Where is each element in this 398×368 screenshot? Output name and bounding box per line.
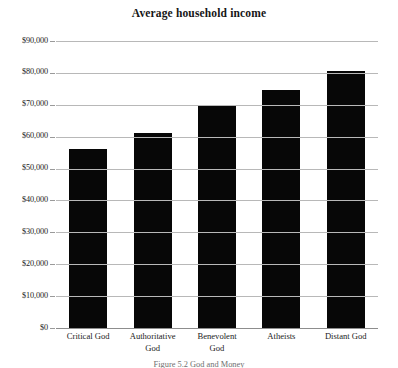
gridline [56,232,378,233]
gridline [56,200,378,201]
y-axis-labels: $90,000$80,000$70,000$60,000$50,000$40,0… [0,41,48,328]
x-axis-tick-label: Atheists [249,331,313,343]
y-axis-tick-label: $10,000 [22,291,48,300]
plot-area [56,41,378,328]
y-axis-tick-label: $20,000 [22,259,48,268]
y-axis-tick-label: $30,000 [22,227,48,236]
x-axis-tick-label: BenevolentGod [185,331,249,354]
y-axis-tick-label: $90,000 [22,36,48,45]
bar [198,105,236,328]
x-axis-tick-label: AuthoritativeGod [120,331,184,354]
x-axis-tick-label-line2: God [120,343,184,355]
y-axis-tick [50,73,55,74]
gridline [56,41,378,42]
figure-container: Average household income $90,000$80,000$… [0,0,398,368]
y-axis-tick [50,264,55,265]
x-axis-tick-label: Critical God [56,331,120,343]
y-axis-tick [50,105,55,106]
bars-layer [56,41,378,328]
y-axis-tick [50,200,55,201]
bar [262,90,300,328]
y-axis-tick-label: $80,000 [22,67,48,76]
x-axis-labels: Critical GodAuthoritativeGodBenevolentGo… [56,331,378,361]
y-axis-tick [50,137,55,138]
y-axis-tick-label: $60,000 [22,131,48,140]
gridline [56,105,378,106]
y-axis-tick-label: $0 [40,323,48,332]
y-axis-tick [50,232,55,233]
gridline [56,264,378,265]
gridline [56,137,378,138]
y-axis-tick [50,169,55,170]
y-axis-tick-label: $40,000 [22,195,48,204]
gridline [56,328,378,329]
chart-title: Average household income [0,7,398,19]
y-axis-tick [50,296,55,297]
bar [134,133,172,328]
y-axis-tick-label: $70,000 [22,99,48,108]
y-axis-tick [50,41,55,42]
y-axis-tick [50,328,55,329]
x-axis-tick-label-line2: God [185,343,249,355]
x-axis-tick-label: Distant God [314,331,378,343]
figure-caption: Figure 5.2 God and Money [0,360,398,368]
gridline [56,73,378,74]
gridline [56,169,378,170]
bar [69,149,107,328]
y-axis-tick-label: $50,000 [22,163,48,172]
gridline [56,296,378,297]
